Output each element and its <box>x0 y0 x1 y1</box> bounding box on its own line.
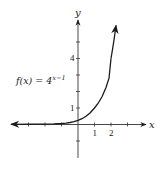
y-tick-label-1: 1 <box>70 103 75 113</box>
function-label-exponent: x−1 <box>52 74 65 82</box>
y-axis-label: y <box>74 7 81 18</box>
function-graph: x y 1 2 1 4 f(x) = 4x−1 <box>0 0 160 173</box>
function-label-base: f(x) = 4 <box>15 75 52 86</box>
y-tick-label-4: 4 <box>70 53 75 63</box>
exponential-curve-upper <box>111 26 116 59</box>
x-tick-label-1: 1 <box>93 128 98 138</box>
exponential-curve <box>11 59 111 125</box>
function-label: f(x) = 4x−1 <box>15 74 66 86</box>
x-axis-label: x <box>149 119 155 130</box>
x-tick-label-2: 2 <box>109 128 114 138</box>
